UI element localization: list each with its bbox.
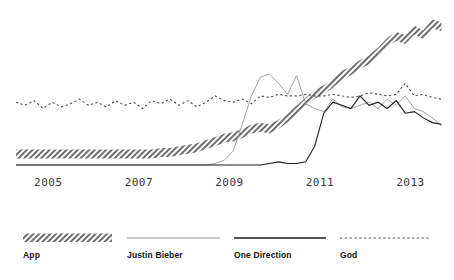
x-axis-tick-2005: 2005 [34,176,63,189]
legend-swatch-app [23,234,112,243]
x-axis-tick-2007: 2007 [125,176,154,189]
legend-label-god: God [340,250,357,260]
legend-label-app: App [23,250,40,260]
legend-label-justin-bieber: Justin Bieber [127,250,183,260]
x-axis-tick-2013: 2013 [396,176,425,189]
x-axis-tick-2011: 2011 [306,176,335,189]
legend-label-one-direction: One Direction [234,250,292,260]
trend-chart: 20052007200920112013 App Justin Bieber O… [0,0,454,280]
x-axis-tick-2009: 2009 [215,176,244,189]
